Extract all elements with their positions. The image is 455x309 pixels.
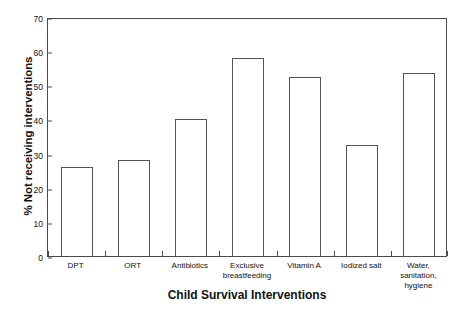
x-tick-mark xyxy=(277,251,278,256)
y-axis-title: % Not receiving interventions xyxy=(22,16,34,256)
y-tick-label: 30 xyxy=(34,151,43,160)
y-tick-label: 0 xyxy=(38,254,43,263)
x-tick-label: Antibiotics xyxy=(161,261,218,271)
x-tick-label: ORT xyxy=(104,261,161,271)
plot-area: 010203040506070 xyxy=(47,18,447,257)
bar xyxy=(175,119,207,256)
bar-slot xyxy=(48,19,105,256)
x-tick-label: Iodized salt xyxy=(333,261,390,271)
y-tick-label: 70 xyxy=(34,15,43,24)
bar-slot xyxy=(105,19,162,256)
y-tick-mark xyxy=(48,258,52,259)
chart-figure: % Not receiving interventions 0102030405… xyxy=(0,0,455,309)
bar xyxy=(403,73,435,256)
bar-slot xyxy=(334,19,391,256)
x-tick-label: DPT xyxy=(47,261,104,271)
y-tick-label: 50 xyxy=(34,83,43,92)
x-tick-mark xyxy=(334,251,335,256)
x-tick-label: Exclusivebreastfeeding xyxy=(218,261,275,281)
x-tick-mark xyxy=(48,251,49,256)
x-tick-mark xyxy=(105,251,106,256)
x-tick-label: Vitamin A xyxy=(276,261,333,271)
y-tick-label: 60 xyxy=(34,49,43,58)
x-tick-label: Water,sanitation,hygiene xyxy=(390,261,447,291)
bar-slot xyxy=(277,19,334,256)
bar-slot xyxy=(162,19,219,256)
bar xyxy=(61,167,93,256)
bar xyxy=(289,77,321,256)
x-axis-title: Child Survival Interventions xyxy=(47,288,447,302)
y-tick-label: 40 xyxy=(34,117,43,126)
y-tick-label: 10 xyxy=(34,220,43,229)
x-tick-mark xyxy=(162,251,163,256)
bar-slot xyxy=(391,19,448,256)
bar xyxy=(118,160,150,256)
bar xyxy=(232,58,264,256)
x-tick-mark xyxy=(391,251,392,256)
x-tick-mark xyxy=(447,251,448,256)
bar-series xyxy=(48,19,446,256)
y-tick-label: 20 xyxy=(34,185,43,194)
bar-slot xyxy=(219,19,276,256)
bar xyxy=(346,145,378,256)
x-tick-mark xyxy=(219,251,220,256)
